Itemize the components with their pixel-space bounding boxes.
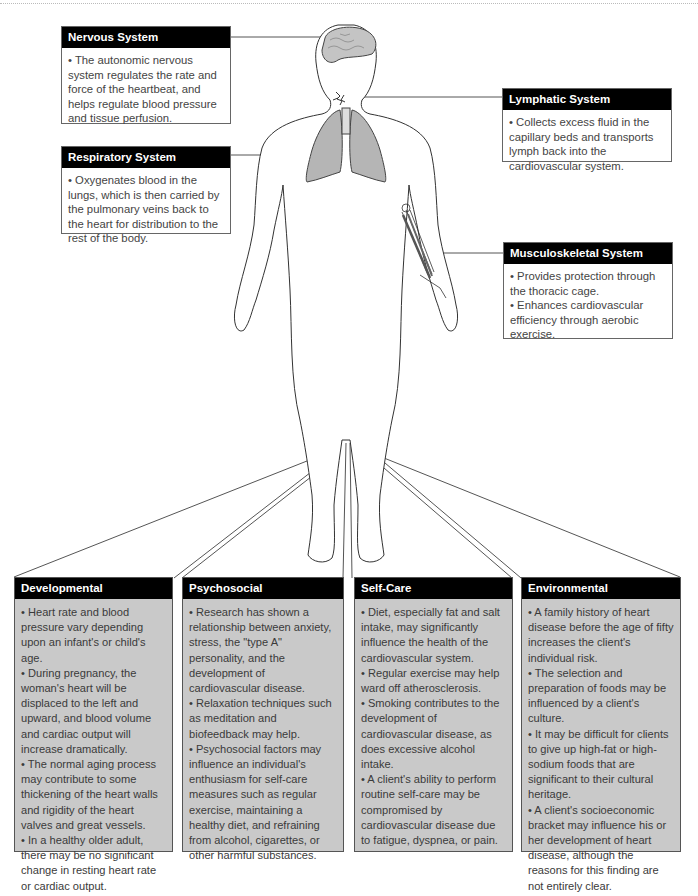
environmental-bullet-1: • A family history of heart disease befo… xyxy=(528,605,674,666)
psychosocial-bullet-2: • Relaxation techniques such as meditati… xyxy=(189,696,337,742)
self-care-bullet-3: • Smoking contributes to the development… xyxy=(361,696,506,772)
musculoskeletal-system-box: Musculoskeletal System • Provides protec… xyxy=(503,242,673,339)
respiratory-system-text: • Oxygenates blood in the lungs, which i… xyxy=(68,173,224,246)
trachea-icon xyxy=(342,108,350,134)
self-care-bullet-2: • Regular exercise may help ward off ath… xyxy=(361,666,506,696)
respiratory-system-title: Respiratory System xyxy=(62,147,230,168)
environmental-bullet-2: • The selection and preparation of foods… xyxy=(528,666,674,727)
body-outline xyxy=(234,25,457,562)
self-care-bullet-4: • A client's ability to perform routine … xyxy=(361,772,506,848)
psychosocial-bullet-1: • Research has shown a relationship betw… xyxy=(189,605,337,696)
musculoskeletal-system-title: Musculoskeletal System xyxy=(504,243,672,264)
musculoskeletal-bullet-1: • Provides protection through the thorac… xyxy=(510,269,666,298)
lymphatic-system-text: • Collects excess fluid in the capillary… xyxy=(509,115,665,173)
musculoskeletal-bullet-2: • Enhances cardiovascular efficiency thr… xyxy=(510,298,666,342)
psychosocial-box: Psychosocial • Research has shown a rela… xyxy=(182,577,344,852)
developmental-bullet-3: • The normal aging process may contribut… xyxy=(21,757,166,833)
environmental-bullet-3: • It may be difficult for clients to giv… xyxy=(528,727,674,803)
nervous-system-text: • The autonomic nervous system regulates… xyxy=(68,53,224,126)
developmental-title: Developmental xyxy=(15,578,172,599)
nervous-system-title: Nervous System xyxy=(62,27,230,48)
developmental-box: Developmental • Heart rate and blood pre… xyxy=(14,577,173,852)
psychosocial-title: Psychosocial xyxy=(183,578,343,599)
environmental-title: Environmental xyxy=(522,578,680,599)
nervous-system-box: Nervous System • The autonomic nervous s… xyxy=(61,26,231,124)
environmental-bullet-4: • A client's socioeconomic bracket may i… xyxy=(528,803,674,894)
lymphatic-system-title: Lymphatic System xyxy=(503,89,671,110)
self-care-bullet-1: • Diet, especially fat and salt intake, … xyxy=(361,605,506,666)
self-care-box: Self-Care • Diet, especially fat and sal… xyxy=(354,577,513,852)
developmental-bullet-4: • In a healthy older adult, there may be… xyxy=(21,833,166,894)
developmental-bullet-1: • Heart rate and blood pressure vary dep… xyxy=(21,605,166,666)
respiratory-system-box: Respiratory System • Oxygenates blood in… xyxy=(61,146,231,234)
psychosocial-bullet-3: • Psychosocial factors may influence an … xyxy=(189,742,337,864)
self-care-title: Self-Care xyxy=(355,578,512,599)
developmental-bullet-2: • During pregnancy, the woman's heart wi… xyxy=(21,666,166,757)
lymphatic-system-box: Lymphatic System • Collects excess fluid… xyxy=(502,88,672,162)
environmental-box: Environmental • A family history of hear… xyxy=(521,577,681,852)
